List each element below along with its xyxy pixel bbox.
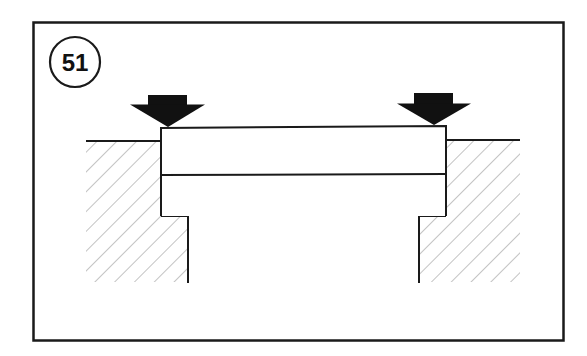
- right-press-arrow-icon: [397, 93, 471, 125]
- left-press-arrow-icon: [130, 95, 205, 127]
- step-number-badge: 51: [50, 37, 100, 87]
- diagram-canvas: 51: [0, 0, 587, 356]
- step-number-label: 51: [62, 49, 89, 76]
- stepped-component: [161, 126, 446, 216]
